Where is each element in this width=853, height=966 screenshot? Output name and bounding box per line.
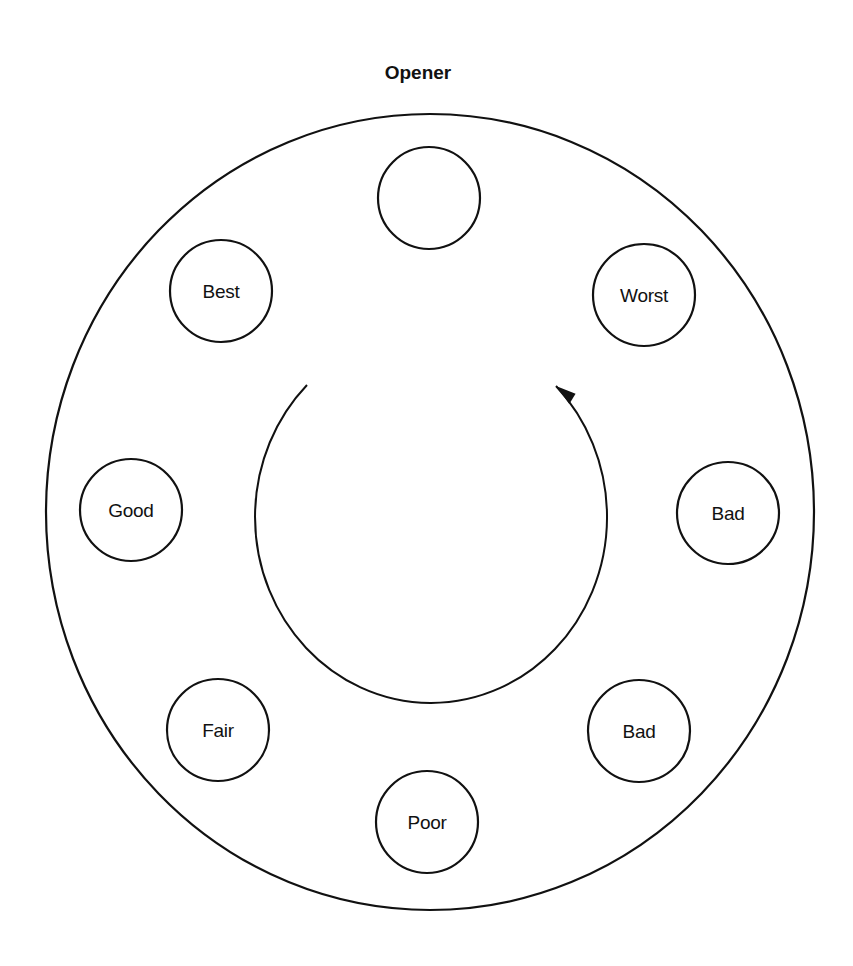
seat-bottom: Poor <box>376 771 478 873</box>
seat-right: Bad <box>677 462 779 564</box>
seat-upper-left: Best <box>170 240 272 342</box>
seat-top <box>378 147 480 249</box>
seat-label-best: Best <box>203 281 241 302</box>
seat-label-bad: Bad <box>712 503 745 524</box>
seat-lower-right: Bad <box>588 680 690 782</box>
seating-diagram: Opener Worst Bad Bad Poor Fair Good <box>0 0 853 966</box>
seat-label-bad: Bad <box>623 721 656 742</box>
seat-left: Good <box>80 459 182 561</box>
flow-arrow-arc <box>255 385 607 703</box>
seat-label-good: Good <box>108 500 153 521</box>
seat-label-worst: Worst <box>620 285 669 306</box>
seat-circle <box>378 147 480 249</box>
seat-label-fair: Fair <box>202 720 234 741</box>
arrowhead-icon <box>556 385 576 405</box>
seat-lower-left: Fair <box>167 679 269 781</box>
seat-label-poor: Poor <box>408 812 448 833</box>
opener-title: Opener <box>385 62 452 83</box>
seat-upper-right: Worst <box>593 244 695 346</box>
